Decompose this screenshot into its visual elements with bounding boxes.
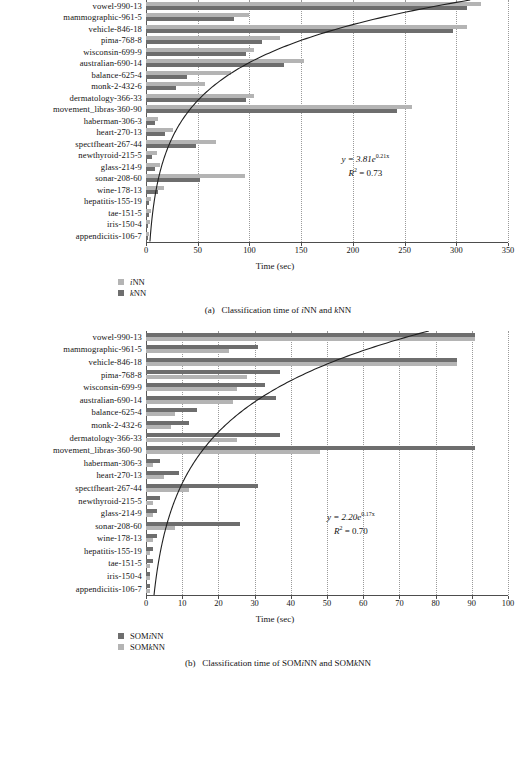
bar-SOMkNN xyxy=(146,450,320,454)
bar-kNN xyxy=(146,86,176,90)
axis-tick-label: 0 xyxy=(144,247,148,255)
bar-row: balance-625-4 xyxy=(146,69,508,81)
x-axis-title-b: Time (sec) xyxy=(0,614,530,624)
chart-a: vowel-990-13mammographic-961-5vehicle-84… xyxy=(0,0,530,271)
bar-SOMkNN xyxy=(146,362,457,366)
axis-tick-label: 150 xyxy=(295,247,308,255)
category-label: haberman-306-3 xyxy=(84,116,142,125)
bar-SOMkNN xyxy=(146,463,153,467)
category-label: vowel-990-13 xyxy=(93,1,142,10)
legend-label: SOMkNN xyxy=(130,642,165,652)
bar-row: pima-768-8 xyxy=(146,368,508,381)
equation-r2-a: R2 = 0.73 xyxy=(341,166,389,180)
bar-row: sonar-208-60 xyxy=(146,173,508,185)
axis-tick-label: 20 xyxy=(214,600,222,608)
bar-kNN xyxy=(146,144,196,148)
legend-label: iNN xyxy=(130,277,145,287)
category-label: hepatitis-155-19 xyxy=(84,547,142,556)
category-label: glass-214-9 xyxy=(101,162,142,171)
plot-area-b: vowel-990-13mammographic-961-5vehicle-84… xyxy=(146,331,508,596)
bar-kNN xyxy=(146,75,187,79)
axis-tick-label: 50 xyxy=(194,247,202,255)
category-label: wine-178-13 xyxy=(97,534,142,543)
x-axis-title-a: Time (sec) xyxy=(0,261,530,271)
plot-area-a: vowel-990-13mammographic-961-5vehicle-84… xyxy=(146,0,508,242)
bar-row: wine-178-13 xyxy=(146,184,508,196)
legend-item: SOMkNN xyxy=(118,641,530,652)
axis-tick-label: 80 xyxy=(431,600,439,608)
bar-SOMkNN xyxy=(146,337,475,341)
bar-kNN xyxy=(146,155,152,159)
equation-annotation-a: y = 3.81e0.21x R2 = 0.73 xyxy=(341,152,389,180)
bar-row: appendicitis-106-7 xyxy=(146,230,508,242)
bar-kNN xyxy=(146,167,155,171)
bar-kNN xyxy=(146,190,158,194)
bar-SOMkNN xyxy=(146,501,153,505)
axis-tick-label: 350 xyxy=(502,247,515,255)
axis-tick-label: 0 xyxy=(144,600,148,608)
category-label: wisconsin-699-9 xyxy=(83,383,142,392)
bar-SOMkNN xyxy=(146,513,153,517)
bar-kNN xyxy=(146,63,284,67)
bar-kNN xyxy=(146,40,262,44)
bar-row: newthyroid-215-5 xyxy=(146,494,508,507)
legend-item: iNN xyxy=(118,277,530,288)
bar-row: iris-150-4 xyxy=(146,219,508,231)
caption-prefix-b: (b) xyxy=(185,658,196,668)
bar-row: appendicitis-106-7 xyxy=(146,582,508,595)
category-label: appendicitis-106-7 xyxy=(76,231,142,240)
legend-swatch-SOMkNN xyxy=(118,644,124,650)
legend-swatch-iNN xyxy=(118,279,124,285)
x-axis-a: 050100150200250300350 xyxy=(146,242,508,258)
chart-b: vowel-990-13mammographic-961-5vehicle-84… xyxy=(0,331,530,625)
bar-row: hepatitis-155-19 xyxy=(146,545,508,558)
axis-tick-label: 300 xyxy=(450,247,463,255)
bar-row: vowel-990-13 xyxy=(146,0,508,12)
bar-kNN xyxy=(146,201,149,205)
category-label: movement_libras-360-90 xyxy=(53,446,142,455)
bar-SOMkNN xyxy=(146,412,175,416)
equation-formula-b: y = 2.20e0.17x xyxy=(327,510,375,524)
bar-row: vehicle-846-18 xyxy=(146,23,508,35)
bar-SOMkNN xyxy=(146,576,150,580)
figure-page: vowel-990-13mammographic-961-5vehicle-84… xyxy=(0,0,530,784)
legend-item: kNN xyxy=(118,288,530,299)
axis-tick-label: 250 xyxy=(398,247,411,255)
category-label: glass-214-9 xyxy=(101,509,142,518)
category-label: balance-625-4 xyxy=(92,70,142,79)
bar-row: heart-270-13 xyxy=(146,127,508,139)
bar-row: wisconsin-699-9 xyxy=(146,381,508,394)
category-label: australian-690-14 xyxy=(80,395,142,404)
axis-tick-label: 70 xyxy=(395,600,403,608)
bar-row: spectfheart-267-44 xyxy=(146,138,508,150)
category-label: dermatology-366-33 xyxy=(70,433,142,442)
bar-row: dermatology-366-33 xyxy=(146,92,508,104)
axis-tick-label: 40 xyxy=(287,600,295,608)
bar-row: hepatitis-155-19 xyxy=(146,196,508,208)
bar-SOMkNN xyxy=(146,589,150,593)
caption-a: (a) Classification time of iNN and kNN xyxy=(0,305,530,315)
bar-row: haberman-306-3 xyxy=(146,115,508,127)
bar-row: tae-151-5 xyxy=(146,557,508,570)
category-label: heart-270-13 xyxy=(96,471,142,480)
bar-row: vowel-990-13 xyxy=(146,331,508,344)
axis-tick-label: 200 xyxy=(347,247,360,255)
category-label: appendicitis-106-7 xyxy=(76,584,142,593)
equation-r2-b: R2 = 0.70 xyxy=(327,524,375,538)
category-label: balance-625-4 xyxy=(92,408,142,417)
bar-row: iris-150-4 xyxy=(146,570,508,583)
bar-SOMkNN xyxy=(146,387,237,391)
legend-label: SOMiNN xyxy=(130,631,163,641)
category-label: pima-768-8 xyxy=(101,36,142,45)
category-label: dermatology-366-33 xyxy=(70,93,142,102)
bar-SOMkNN xyxy=(146,349,229,353)
x-axis-b: 0102030405060708090100 xyxy=(146,595,508,611)
gridline xyxy=(508,0,509,242)
bar-SOMkNN xyxy=(146,538,153,542)
bar-SOMkNN xyxy=(146,475,164,479)
category-label: vehicle-846-18 xyxy=(89,358,142,367)
category-label: monk-2-432-6 xyxy=(91,82,142,91)
category-label: iris-150-4 xyxy=(107,220,142,229)
category-label: spectfheart-267-44 xyxy=(75,139,142,148)
equation-annotation-b: y = 2.20e0.17x R2 = 0.70 xyxy=(327,510,375,538)
